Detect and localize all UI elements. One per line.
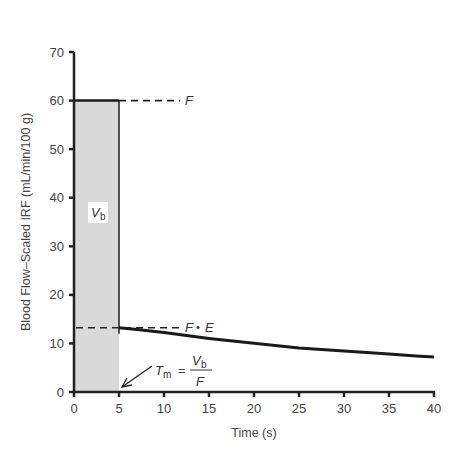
vb-label-sub: b	[100, 211, 106, 222]
fe-label-e: E	[205, 320, 214, 335]
x-tick-25: 25	[292, 401, 306, 416]
vb-shaded-region	[74, 101, 119, 392]
y-tick-0: 0	[57, 385, 64, 400]
x-tick-15: 15	[202, 401, 216, 416]
y-tick-labels: 0 10 20 30 40 50 60 70	[50, 45, 64, 400]
x-tick-40: 40	[427, 401, 441, 416]
fe-label-f: F	[185, 320, 194, 335]
y-tick-40: 40	[50, 190, 64, 205]
y-tick-10: 10	[50, 336, 64, 351]
tm-numerator-sub: b	[201, 359, 207, 370]
y-axis-title: Blood Flow–Scaled IRF (mL/min/100 g)	[19, 113, 33, 331]
tm-equals: =	[178, 363, 186, 378]
x-axis-title: Time (s)	[231, 426, 276, 440]
x-tick-0: 0	[70, 401, 77, 416]
x-tick-35: 35	[382, 401, 396, 416]
fe-label: F • E	[185, 320, 214, 335]
irf-curve	[119, 328, 434, 357]
y-tick-60: 60	[50, 93, 64, 108]
y-tick-50: 50	[50, 142, 64, 157]
x-tick-30: 30	[337, 401, 351, 416]
y-tick-30: 30	[50, 239, 64, 254]
y-tick-20: 20	[50, 287, 64, 302]
x-tick-5: 5	[115, 401, 122, 416]
tm-annotation: T m = V b F	[155, 353, 212, 389]
tm-sub: m	[163, 369, 171, 380]
x-tick-10: 10	[157, 401, 171, 416]
tm-arrow	[122, 366, 152, 387]
fe-label-dot: •	[196, 321, 200, 333]
x-tick-20: 20	[247, 401, 261, 416]
y-tick-70: 70	[50, 45, 64, 60]
f-label: F	[185, 93, 194, 108]
irf-chart: 0 10 20 30 40 50 60 70 0 5 10 15 20 25 3…	[0, 0, 455, 454]
x-tick-labels: 0 5 10 15 20 25 30 35 40	[70, 401, 441, 416]
tm-denominator: F	[196, 374, 205, 389]
